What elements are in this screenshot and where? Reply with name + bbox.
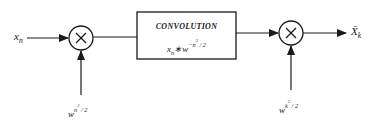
right-factor-label: wk2 / 2 (279, 100, 298, 115)
block-diagram-canvas (0, 0, 379, 124)
left-multiplier (69, 26, 93, 50)
left-factor-label: wn2 / 2 (68, 104, 87, 119)
output-label: X̄k (351, 26, 361, 40)
right-factor-exp-tail: / 2 (290, 102, 298, 109)
output-label-sub: k (358, 31, 361, 40)
conv-expr-w-exp: −n2 / 2 (188, 41, 206, 48)
input-label-sub: n (19, 36, 23, 45)
conv-expr-w-exp-tail: / 2 (198, 41, 206, 48)
convolution-expression: xn∗w−n2 / 2 (137, 38, 236, 56)
conv-expr-w-exp-var: −n (188, 41, 195, 48)
right-factor-exp: k2 / 2 (285, 102, 298, 109)
output-label-base: X̄ (351, 25, 358, 37)
right-multiplier (279, 21, 303, 45)
input-label: xn (14, 31, 23, 45)
left-factor-exp-tail: / 2 (79, 106, 87, 113)
left-factor-exp: n2 / 2 (74, 106, 87, 113)
convolution-title: CONVOLUTION (137, 22, 236, 31)
